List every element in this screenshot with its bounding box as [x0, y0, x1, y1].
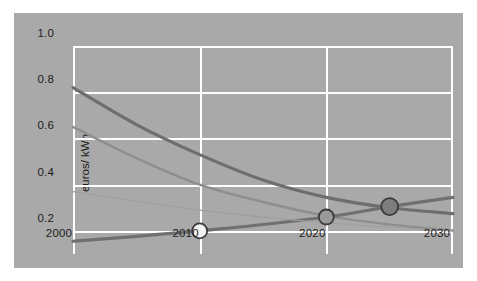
x-tick-2010: 2010 [172, 227, 198, 239]
y-tick-1: 1.0 [37, 27, 54, 39]
series-declining-cost-curve-dark [73, 88, 453, 214]
chart-figure: 1.0 0.8 0.6 0.4 0.2 euros/ kWh 2000 2 [0, 0, 477, 281]
marker-2020 [319, 210, 334, 225]
chart-series-svg [73, 46, 453, 254]
x-axis-tick-labels: 2000 2010 2020 2030 [59, 227, 439, 243]
x-tick-2030: 2030 [424, 227, 450, 239]
x-tick-2020: 2020 [299, 227, 325, 239]
marker-2025 [381, 198, 398, 215]
y-axis-title-holder: euros/ kWh [27, 83, 49, 193]
x-tick-2000: 2000 [46, 227, 72, 239]
plot-area [73, 46, 453, 254]
chart-panel-background: 1.0 0.8 0.6 0.4 0.2 euros/ kWh 2000 2 [14, 13, 463, 268]
y-tick-5: 0.2 [37, 212, 54, 224]
